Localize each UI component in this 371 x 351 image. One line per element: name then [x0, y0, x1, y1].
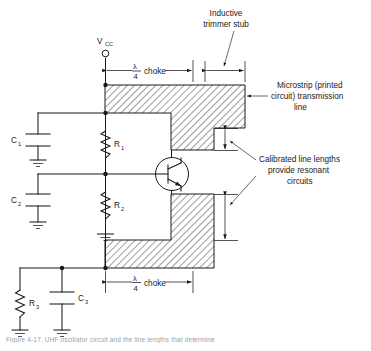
svg-text:λ: λ: [133, 274, 137, 283]
svg-text:4: 4: [134, 72, 138, 81]
circuit-diagram: V CC C 1 C 2 C 3 R 1 R 2 R 3: [0, 0, 371, 351]
resistor-r3: [16, 290, 25, 317]
inductive-stub-label-line2: trimmer stub: [203, 20, 249, 29]
c3-label-sub: 3: [85, 299, 88, 305]
junction-dots: [60, 83, 108, 270]
microstrip-upper: [105, 85, 245, 150]
vcc-label-sub: CC: [105, 41, 113, 47]
c2-label-sub: 2: [18, 201, 21, 207]
dimension-stub: [205, 61, 245, 82]
r2-label: R: [114, 201, 120, 210]
c1-label: C: [11, 136, 17, 145]
vcc-terminal: [102, 50, 109, 57]
inductive-stub-leader: [224, 31, 234, 66]
c2-label: C: [11, 196, 17, 205]
calibrated-label-line1: Calibrated line lengths: [259, 155, 340, 164]
ground-symbol-c1: [30, 160, 46, 167]
inductive-stub-label-line1: Inductive: [210, 9, 243, 18]
r2-label-sub: 2: [121, 206, 124, 212]
choke-top-fraction: λ 4: [132, 62, 141, 81]
c3-label: C: [78, 294, 84, 303]
r3-label: R: [29, 299, 35, 308]
calibrated-label-line2: provide resonant: [268, 166, 330, 175]
r3-label-sub: 3: [36, 304, 39, 310]
capacitor-c2: [26, 194, 50, 206]
figure-caption: Figure 4-17. UHF oscillator circuit and …: [6, 336, 366, 343]
calibrated-label-line3: circuits: [287, 177, 312, 186]
capacitor-c1: [26, 134, 50, 146]
c1-label-sub: 1: [18, 141, 21, 147]
svg-text:λ: λ: [133, 62, 137, 71]
microstrip-label-line1: Microstrip (printed: [277, 81, 343, 90]
vcc-label: V: [97, 37, 103, 46]
choke-bottom-label: choke: [144, 279, 166, 288]
r1-label-sub: 1: [121, 145, 124, 151]
microstrip-label-line3: line: [294, 103, 307, 112]
choke-top-label: choke: [144, 67, 166, 76]
ground-symbol-c2: [30, 222, 46, 229]
capacitor-c3: [50, 292, 74, 304]
microstrip-label-line2: circuit) transmission: [271, 92, 344, 101]
npn-transistor: [156, 158, 189, 192]
choke-bottom-fraction: λ 4: [132, 274, 141, 293]
calibrated-leader-lower: [230, 176, 256, 205]
dimension-gap-upper: [214, 129, 238, 151]
svg-text:4: 4: [134, 284, 138, 293]
dimension-gap-lower: [214, 195, 238, 241]
r1-label: R: [114, 140, 120, 149]
